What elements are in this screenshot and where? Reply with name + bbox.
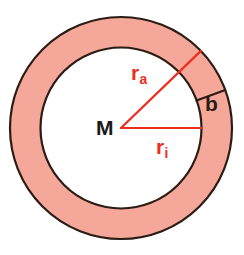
outer-radius-label: ra bbox=[131, 62, 147, 83]
annulus-svg bbox=[0, 0, 244, 255]
center-label: M bbox=[96, 117, 114, 138]
outer-radius-label-subscript: a bbox=[139, 71, 147, 87]
annulus-diagram: M ra ri b bbox=[0, 0, 244, 255]
inner-radius-label: ri bbox=[156, 136, 168, 157]
inner-radius-label-base: r bbox=[156, 135, 164, 158]
inner-radius-label-subscript: i bbox=[164, 145, 168, 161]
thickness-label: b bbox=[205, 93, 218, 114]
outer-radius-label-base: r bbox=[131, 61, 139, 84]
